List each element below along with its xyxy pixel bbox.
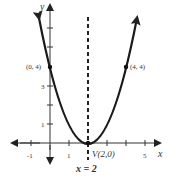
symmetry-label: x = 2: [75, 163, 97, 174]
vertex-point: [86, 141, 90, 145]
point-label-right: (4, 4): [130, 63, 146, 71]
vertex-label: V(2,0): [92, 149, 115, 159]
tick-label-5: 5: [143, 152, 147, 160]
tick-label-1x: 1: [67, 152, 71, 160]
point-0-4: [48, 65, 52, 69]
parabola-chart: y x (0, 4) (4, 4) V(2,0) x = 2 -1 1 5 1 …: [0, 0, 174, 181]
point-4-4: [124, 65, 128, 69]
tick-label-neg1: -1: [27, 152, 33, 160]
tick-label-3y: 3: [41, 83, 45, 91]
point-label-left: (0, 4): [26, 63, 42, 71]
tick-label-1y: 1: [41, 121, 45, 129]
y-axis-label: y: [39, 1, 45, 12]
x-axis-label: x: [157, 148, 163, 159]
